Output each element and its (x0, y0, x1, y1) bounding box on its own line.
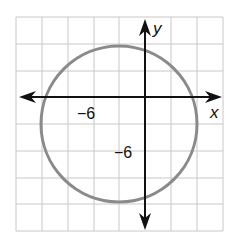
y-axis-label: y (152, 19, 163, 38)
grid (16, 17, 223, 231)
coordinate-plane: y x −6 −6 (0, 0, 233, 250)
y-tick-label: −6 (114, 144, 132, 161)
x-axis-label: x (209, 103, 219, 122)
x-tick-label: −6 (77, 105, 95, 122)
